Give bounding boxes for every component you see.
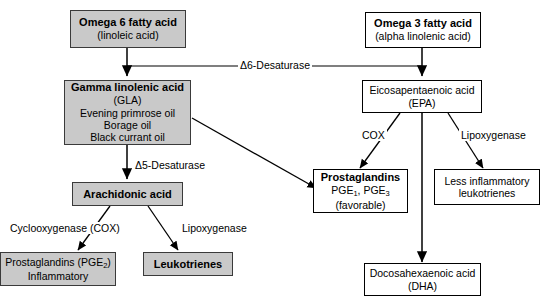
label-cox-right: COX bbox=[360, 129, 387, 141]
pge2-subscript: 2 bbox=[103, 260, 107, 269]
dha-abbrev: (DHA) bbox=[408, 280, 437, 292]
box-omega-6-fatty-acid: Omega 6 fatty acid (linoleic acid) bbox=[70, 10, 186, 48]
less-inflammatory-line1: Less inflammatory bbox=[444, 175, 529, 187]
gla-source-black-currant: Black currant oil bbox=[90, 131, 165, 143]
gla-title: Gamma linolenic acid bbox=[71, 81, 184, 94]
cox-left-line2: (COX) bbox=[90, 222, 120, 234]
label-lipoxygenase-right: Lipoxygenase bbox=[459, 129, 528, 141]
omega3-title: Omega 3 fatty acid bbox=[374, 17, 472, 30]
box-less-inflammatory-leukotrienes: Less inflammatory leukotrienes bbox=[434, 169, 540, 205]
less-inflammatory-line2: leukotrienes bbox=[459, 187, 516, 199]
box-prostaglandins-pge2: Prostaglandins (PGE2) Inflammatory bbox=[0, 252, 116, 286]
gla-source-evening-primrose: Evening primrose oil bbox=[80, 107, 175, 119]
box-arachidonic-acid: Arachidonic acid bbox=[72, 182, 183, 206]
leukotrienes-title: Leukotrienes bbox=[154, 258, 222, 271]
box-leukotrienes: Leukotrienes bbox=[143, 252, 233, 276]
omega6-title: Omega 6 fatty acid bbox=[79, 16, 177, 29]
pge13-title: Prostaglandins bbox=[321, 171, 400, 184]
pge13-types: PGE1, PGE3 bbox=[331, 184, 390, 198]
pathway-diagram: Omega 6 fatty acid (linoleic acid) Gamma… bbox=[0, 0, 550, 299]
box-eicosapentaenoic-acid: Eicosapentaenoic acid (EPA) bbox=[362, 80, 482, 113]
omega6-subtitle: (linoleic acid) bbox=[97, 29, 158, 41]
label-cyclooxygenase-cox: Cyclooxygenase (COX) bbox=[8, 222, 122, 234]
gla-abbrev: (GLA) bbox=[113, 94, 141, 106]
arrow-arachidonic-to-leukotrienes bbox=[148, 206, 178, 250]
epa-abbrev: (EPA) bbox=[408, 97, 435, 109]
pge2-title: Prostaglandins (PGE2) bbox=[5, 256, 111, 270]
gla-source-borage: Borage oil bbox=[104, 119, 151, 131]
box-docosahexaenoic-acid: Docosahexaenoic acid (DHA) bbox=[364, 263, 481, 296]
pge1-subscript: 1 bbox=[353, 189, 357, 198]
box-prostaglandins-pge1-pge3: Prostaglandins PGE1, PGE3 (favorable) bbox=[313, 169, 408, 213]
pge13-favorable: (favorable) bbox=[335, 199, 385, 211]
arachidonic-title: Arachidonic acid bbox=[83, 188, 172, 201]
dha-title: Docosahexaenoic acid bbox=[370, 267, 476, 279]
arrow-gla-to-pge13 bbox=[192, 118, 316, 188]
pge2-inflammatory: Inflammatory bbox=[28, 270, 89, 282]
omega3-subtitle: (alpha linolenic acid) bbox=[375, 30, 471, 42]
label-delta-5-desaturase: Δ5-Desaturase bbox=[133, 159, 207, 171]
box-gamma-linolenic-acid: Gamma linolenic acid (GLA) Evening primr… bbox=[64, 80, 191, 145]
box-omega-3-fatty-acid: Omega 3 fatty acid (alpha linolenic acid… bbox=[365, 12, 481, 48]
label-lipoxygenase-left: Lipoxygenase bbox=[180, 222, 249, 234]
cox-left-line1: Cyclooxygenase bbox=[10, 222, 87, 234]
label-delta-6-desaturase: Δ6-Desaturase bbox=[238, 59, 312, 71]
epa-title: Eicosapentaenoic acid bbox=[369, 84, 474, 96]
pge3-subscript: 3 bbox=[386, 189, 390, 198]
